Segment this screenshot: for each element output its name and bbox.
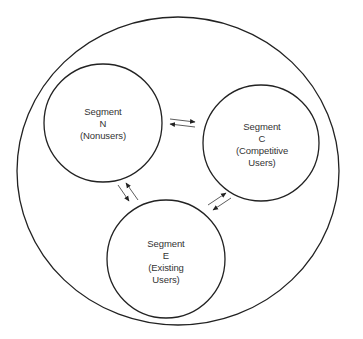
flow-n-c-arrows bbox=[170, 119, 195, 127]
segment-c-letter: C bbox=[236, 133, 288, 145]
segment-e-description-line2: Users) bbox=[147, 274, 184, 286]
segment-e-label: Segment E (Existing Users) bbox=[147, 238, 184, 286]
segment-n-label: Segment N (Nonusers) bbox=[80, 106, 126, 142]
segment-n-description: (Nonusers) bbox=[80, 130, 126, 142]
segment-n-title: Segment bbox=[80, 106, 126, 118]
segment-c-title: Segment bbox=[236, 121, 288, 133]
flow-e-c-arrows bbox=[208, 193, 231, 210]
segment-c-description-line2: Users) bbox=[236, 157, 288, 169]
segment-e-letter: E bbox=[147, 250, 184, 262]
arrow-n-to-e-icon bbox=[118, 185, 129, 201]
arrow-n-to-c-icon bbox=[170, 119, 195, 122]
segment-e-title: Segment bbox=[147, 238, 184, 250]
segment-e-description: (Existing bbox=[147, 262, 184, 274]
segment-c-description: (Competitive bbox=[236, 145, 288, 157]
segment-n-letter: N bbox=[80, 118, 126, 130]
segment-diagram: Segment N (Nonusers) Segment C (Competit… bbox=[0, 0, 363, 339]
flow-n-e-arrows bbox=[118, 183, 138, 201]
arrow-c-to-n-icon bbox=[170, 124, 195, 127]
arrow-e-to-n-icon bbox=[126, 183, 138, 200]
segment-c-label: Segment C (Competitive Users) bbox=[236, 121, 288, 169]
diagram-canvas bbox=[0, 0, 363, 339]
